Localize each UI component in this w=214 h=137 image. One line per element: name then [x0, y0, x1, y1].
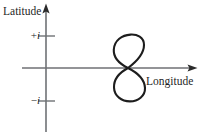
longitude-axis-title: Longitude	[146, 76, 193, 88]
tick-label-positive-unit: i	[37, 29, 40, 41]
figure-container: Latitude Longitude +i −i	[0, 0, 214, 137]
tick-label-positive-i: +i	[18, 30, 40, 41]
longitude-axis	[22, 64, 198, 71]
tick-label-negative-i: −i	[18, 95, 40, 106]
plot-canvas	[0, 0, 214, 137]
latitude-axis-title: Latitude	[3, 6, 41, 18]
tick-label-negative-unit: i	[37, 94, 40, 106]
